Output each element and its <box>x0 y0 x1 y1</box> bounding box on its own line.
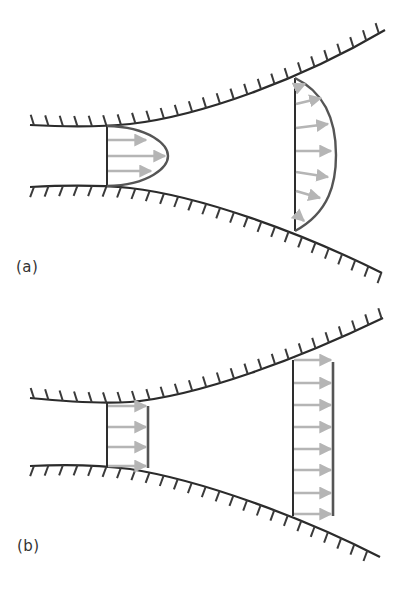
hatch-mark <box>131 470 135 480</box>
hatch-mark <box>311 526 315 536</box>
hatch-mark <box>364 551 368 561</box>
hatch-mark <box>350 37 353 47</box>
hatch-mark <box>230 212 234 222</box>
hatch-mark <box>216 491 220 501</box>
hatch-mark <box>271 74 274 84</box>
hatch-mark <box>350 544 354 554</box>
hatch-mark <box>298 62 301 72</box>
velocity-arrow <box>296 214 304 221</box>
hatch-mark <box>88 466 92 476</box>
hatch-mark <box>174 197 178 207</box>
hatch-mark <box>74 391 77 401</box>
hatch-mark <box>217 93 220 103</box>
velocity-arrow <box>296 124 328 128</box>
hatch-mark <box>299 343 302 353</box>
inlet-velocity-profile <box>107 403 148 468</box>
hatch-mark <box>74 116 77 126</box>
hatch-mark <box>188 483 192 493</box>
velocity-arrows <box>108 406 146 466</box>
panel-a <box>30 23 385 283</box>
hatch-mark <box>89 392 92 402</box>
panel-b <box>30 308 383 561</box>
hatch-mark <box>337 538 341 548</box>
hatch-mark <box>118 392 121 402</box>
hatch-mark <box>31 115 34 125</box>
velocity-arrows <box>294 360 331 514</box>
hatch-mark <box>45 186 49 196</box>
hatch-mark <box>243 500 247 510</box>
velocity-arrow <box>296 191 320 198</box>
hatch-mark <box>146 389 149 399</box>
hatch-mark <box>189 101 192 111</box>
hatch-mark <box>271 227 275 237</box>
parabolic-profile-curve <box>295 78 336 231</box>
hatch-mark <box>272 354 275 364</box>
hatch-mark <box>89 116 92 126</box>
hatch-mark <box>297 521 301 531</box>
hatch-mark <box>88 186 92 196</box>
hatch-mark <box>258 79 261 89</box>
hatch-mark <box>31 388 34 398</box>
hatch-mark <box>378 308 381 318</box>
hatch-mark <box>202 204 206 214</box>
lower-wall-hatching <box>30 186 381 283</box>
hatch-mark <box>103 392 106 402</box>
diverging-channel-figure <box>0 0 410 589</box>
hatch-mark <box>378 273 382 283</box>
hatch-mark <box>117 468 121 478</box>
hatch-mark <box>244 217 248 227</box>
hatch-mark <box>352 320 355 330</box>
upper-wall <box>30 30 385 126</box>
hatch-mark <box>59 465 63 475</box>
panel-label-a: (a) <box>16 258 38 276</box>
hatch-mark <box>229 496 233 506</box>
hatch-mark <box>339 326 342 336</box>
hatch-mark <box>258 222 262 232</box>
hatch-mark <box>324 532 328 542</box>
hatch-mark <box>351 260 355 270</box>
hatch-mark <box>230 89 233 99</box>
hatch-mark <box>284 515 288 525</box>
hatch-mark <box>30 466 34 476</box>
hatch-mark <box>174 479 178 489</box>
outlet-velocity-profile <box>293 360 333 516</box>
velocity-arrows <box>108 140 165 171</box>
hatch-mark <box>188 200 192 210</box>
lower-wall <box>30 186 382 273</box>
hatch-mark <box>202 487 206 497</box>
hatch-mark <box>60 391 63 401</box>
hatch-mark <box>326 332 329 342</box>
hatch-mark <box>285 349 288 359</box>
hatch-mark <box>324 50 327 60</box>
hatch-mark <box>103 115 106 125</box>
hatch-mark <box>312 243 316 253</box>
hatch-mark <box>132 113 135 123</box>
hatch-mark <box>365 266 369 276</box>
velocity-arrow <box>296 84 305 88</box>
hatch-mark <box>376 23 379 33</box>
hatch-mark <box>45 465 49 475</box>
hatch-mark <box>132 391 135 401</box>
hatch-mark <box>117 187 121 197</box>
hatch-mark <box>270 510 274 520</box>
velocity-arrow <box>296 98 321 104</box>
hatch-mark <box>146 111 149 121</box>
inlet-velocity-profile <box>107 126 168 186</box>
hatch-mark <box>231 368 234 378</box>
hatch-mark <box>74 186 78 196</box>
hatch-mark <box>338 254 342 264</box>
hatch-mark <box>118 114 121 124</box>
hatch-mark <box>103 466 107 476</box>
hatch-mark <box>365 314 368 324</box>
hatch-mark <box>312 338 315 348</box>
hatch-mark <box>325 248 329 258</box>
hatch-mark <box>244 364 247 374</box>
hatch-mark <box>161 387 164 397</box>
hatch-mark <box>146 473 150 483</box>
upper-wall-hatching <box>31 308 382 403</box>
panel-label-b: (b) <box>17 537 40 555</box>
hatch-mark <box>103 186 107 196</box>
hatch-mark <box>59 186 63 196</box>
hatch-mark <box>45 389 48 399</box>
lower-wall <box>30 465 380 557</box>
